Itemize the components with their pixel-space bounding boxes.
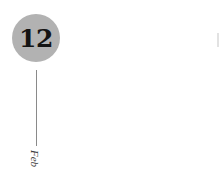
date-day: 12 bbox=[19, 26, 53, 51]
edge-divider bbox=[217, 33, 219, 47]
date-month: Feb bbox=[29, 150, 40, 167]
date-timeline-widget: 12 Feb bbox=[0, 0, 220, 188]
date-circle: 12 bbox=[12, 14, 60, 62]
timeline-line bbox=[36, 70, 37, 146]
